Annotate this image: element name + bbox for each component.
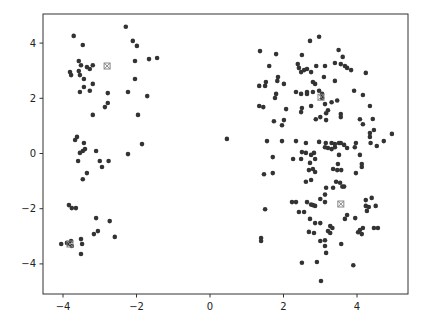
data-point [280,123,285,128]
data-point [59,242,64,247]
x-tick-label: −4 [56,301,71,312]
data-point [82,141,87,146]
data-point [352,89,357,94]
data-point [294,139,299,144]
data-point [333,61,338,66]
data-point [318,239,323,244]
data-point [324,141,329,146]
data-point [264,80,269,85]
data-point [313,221,318,226]
data-point [91,82,96,87]
data-point [334,179,339,184]
data-point [81,177,86,182]
data-point [313,157,318,162]
data-point [371,117,376,122]
data-point [302,210,307,215]
data-point [324,251,329,256]
data-point [313,204,318,209]
data-point [345,146,350,151]
data-point [273,96,278,101]
data-point [82,85,87,90]
data-point [317,35,322,40]
data-point [265,139,270,144]
data-point [309,70,314,75]
data-point [368,135,373,140]
data-point [78,73,83,78]
data-point [257,104,262,109]
data-point [376,226,381,231]
data-point [318,197,323,202]
data-point [318,221,323,226]
data-point [335,168,340,173]
data-point [74,206,79,211]
data-point [91,63,96,68]
data-point [368,104,373,109]
data-point [313,82,318,87]
data-point [323,238,328,243]
data-point [78,90,83,95]
data-point [155,56,160,61]
data-point [69,73,74,78]
data-point [106,91,111,96]
data-point [299,157,304,162]
data-point [107,219,112,224]
data-point [345,66,350,71]
data-point [291,157,296,162]
data-point [77,69,82,74]
data-point [140,142,145,147]
data-point [79,63,84,68]
data-point [368,141,373,146]
y-tick-label: 4 [30,38,36,49]
data-point [257,84,262,89]
data-point [113,235,118,240]
data-point [267,64,272,69]
data-point [312,231,317,236]
data-point [92,232,97,237]
data-point [275,79,280,84]
data-point [79,237,84,242]
data-point [339,168,344,173]
data-point [305,92,310,97]
y-tick-label: 2 [30,93,36,104]
data-point [78,151,83,156]
data-point [299,92,304,97]
data-point [326,108,331,113]
data-point [297,66,302,71]
data-point [133,59,138,64]
data-point [136,113,141,118]
data-point [364,71,369,76]
x-tick-label: 4 [354,301,360,312]
data-point [369,196,374,201]
data-point [336,162,341,167]
data-point [70,206,75,211]
data-point [261,105,266,110]
data-point [361,122,366,127]
data-point [300,261,305,266]
data-point [80,242,85,247]
data-point [88,67,93,72]
data-point [354,171,359,176]
data-point [330,226,335,231]
data-point [135,44,140,49]
data-point [339,242,344,247]
data-point [373,204,378,209]
data-point [308,39,313,44]
data-point [124,25,129,30]
data-point [308,217,313,222]
data-point [317,140,322,145]
data-point [351,263,356,268]
data-point [263,207,268,212]
x-tick-label: 0 [207,301,213,312]
data-point [284,107,289,112]
data-point [147,57,152,62]
data-point [300,150,305,155]
data-point [360,165,365,170]
data-point [343,217,348,222]
data-point [308,161,313,166]
data-point [262,172,267,177]
data-point [340,184,345,189]
data-point [367,205,372,210]
data-point [358,117,363,122]
data-point [103,105,108,110]
data-point [133,77,138,82]
